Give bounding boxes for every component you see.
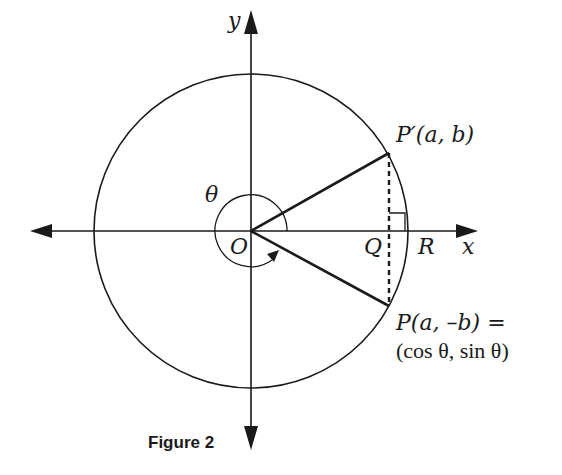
y-axis-down-arrow-icon [244, 426, 258, 450]
y-axis-up-arrow-icon [244, 10, 258, 34]
unit-circle-diagram: y x O Q R θ P′(a, b) P(a, –b) = (cos θ, … [0, 0, 562, 475]
x-axis-left-arrow-icon [30, 224, 52, 238]
origin-label: O [230, 234, 248, 259]
point-p-label-line2: (cos θ, sin θ) [396, 338, 509, 363]
x-axis [30, 224, 478, 238]
point-p-label-line1: P(a, –b) = [395, 310, 506, 335]
theta-arc-arrow-icon [267, 250, 279, 262]
right-angle-marker [389, 213, 405, 231]
theta-label: θ [205, 182, 218, 207]
y-axis-label: y [227, 8, 241, 33]
segment-o-p-prime [251, 153, 389, 231]
point-q-label: Q [364, 234, 382, 259]
figure-caption: Figure 2 [148, 433, 214, 452]
x-axis-label: x [462, 234, 475, 259]
point-r-label: R [417, 234, 435, 259]
point-p-prime-label: P′(a, b) [395, 122, 474, 147]
